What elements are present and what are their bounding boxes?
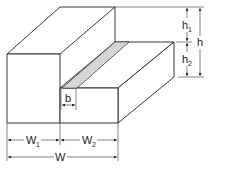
stepped-block-diagram: h 1 h 2 h b W 1 W 2 W [0, 0, 236, 187]
upper-block-top-face [7, 7, 115, 54]
h-label: h [197, 36, 203, 48]
upper-block-front-face [7, 54, 60, 123]
h2-subscript: 2 [188, 60, 192, 67]
h1-subscript: 1 [188, 26, 192, 33]
b-label: b [65, 92, 71, 104]
w-label: W [55, 151, 66, 163]
w2-subscript: 2 [92, 141, 96, 148]
w1-subscript: 1 [36, 141, 40, 148]
width-dimensions: W 1 W 2 W [7, 123, 118, 164]
